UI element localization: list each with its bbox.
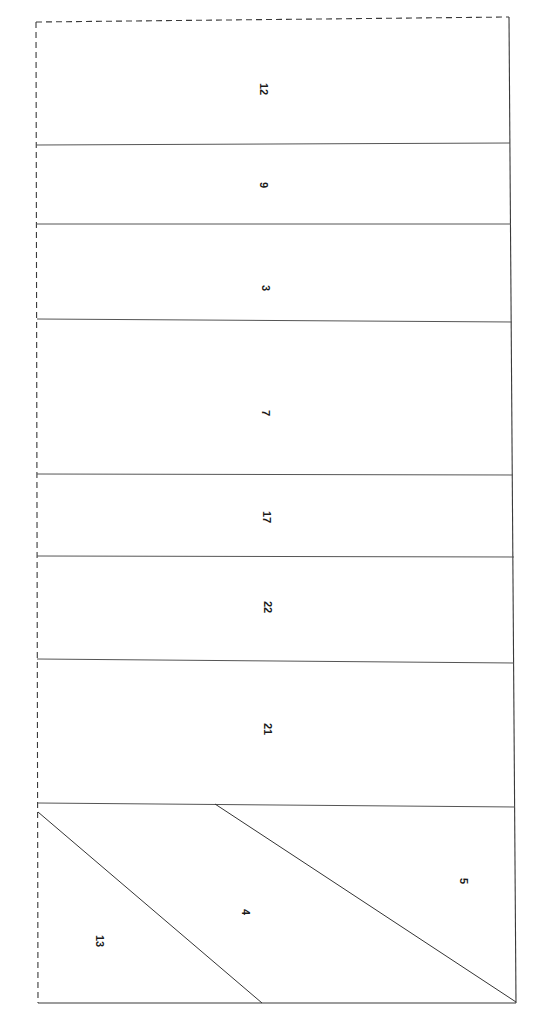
diagonal-13-4 <box>38 812 262 1003</box>
label-piece-7: 7 <box>260 410 272 416</box>
right-edge <box>509 17 516 1003</box>
label-piece-9: 9 <box>258 182 270 188</box>
label-piece-17: 17 <box>261 511 273 523</box>
label-piece-22: 22 <box>262 601 274 613</box>
label-piece-5: 5 <box>458 878 470 884</box>
divider-12-9 <box>36 143 510 145</box>
diagonal-4-5 <box>215 804 516 1002</box>
divider-17-22 <box>37 556 514 557</box>
label-piece-21: 21 <box>262 723 274 735</box>
label-piece-12: 12 <box>258 83 270 95</box>
top-edge-dashed <box>36 17 509 22</box>
divider-21-diag <box>38 803 515 807</box>
piece-labels: 12 9 3 7 17 22 21 13 4 5 <box>94 83 470 947</box>
label-piece-4: 4 <box>240 909 252 916</box>
diagonal-cuts <box>38 804 516 1003</box>
strip-dividers <box>36 143 515 807</box>
divider-7-17 <box>37 474 513 475</box>
label-piece-3: 3 <box>260 285 272 291</box>
outer-border <box>36 17 516 1003</box>
divider-3-7 <box>37 319 512 322</box>
label-piece-13: 13 <box>94 935 106 947</box>
divider-22-21 <box>37 659 514 663</box>
cutting-diagram: 12 9 3 7 17 22 21 13 4 5 <box>0 0 540 1034</box>
left-edge-dashed <box>36 22 38 1003</box>
